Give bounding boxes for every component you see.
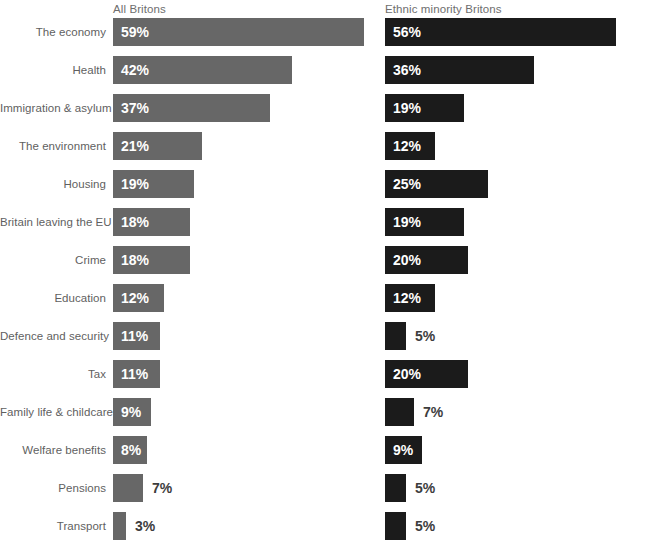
bar-panel-left: 11% bbox=[113, 360, 375, 388]
category-label: Crime bbox=[0, 246, 106, 274]
bar-panel-left: 3% bbox=[113, 512, 375, 540]
bar-value-label: 12% bbox=[121, 284, 149, 312]
bar-panel-left: 11% bbox=[113, 322, 375, 350]
bar-value-label: 19% bbox=[393, 94, 421, 122]
bar-value-label: 21% bbox=[121, 132, 149, 160]
bar-panel-right: 19% bbox=[385, 94, 640, 122]
chart-row: The economy59%56% bbox=[0, 18, 648, 56]
bar bbox=[385, 474, 406, 502]
chart-rows: The economy59%56%Health42%36%Immigration… bbox=[0, 18, 648, 550]
bar-value-label: 12% bbox=[393, 284, 421, 312]
bar-value-label: 18% bbox=[121, 208, 149, 236]
bar-value-label: 3% bbox=[135, 512, 155, 540]
chart-container: All Britons Ethnic minority Britons The … bbox=[0, 0, 648, 557]
category-label: Defence and security bbox=[0, 322, 106, 350]
category-label: Pensions bbox=[0, 474, 106, 502]
category-label: The environment bbox=[0, 132, 106, 160]
bar bbox=[113, 474, 143, 502]
bar bbox=[113, 512, 126, 540]
bar-value-label: 56% bbox=[393, 18, 421, 46]
chart-row: Britain leaving the EU18%19% bbox=[0, 208, 648, 246]
category-label: Britain leaving the EU bbox=[0, 208, 106, 236]
category-label: Health bbox=[0, 56, 106, 84]
bar-value-label: 42% bbox=[121, 56, 149, 84]
bar-panel-left: 19% bbox=[113, 170, 375, 198]
bar-value-label: 25% bbox=[393, 170, 421, 198]
bar-panel-right: 5% bbox=[385, 322, 640, 350]
category-label: Transport bbox=[0, 512, 106, 540]
chart-row: Family life & childcare9%7% bbox=[0, 398, 648, 436]
bar-panel-right: 5% bbox=[385, 512, 640, 540]
bar-value-label: 11% bbox=[121, 322, 148, 350]
bar-panel-left: 59% bbox=[113, 18, 375, 46]
chart-row: Education12%12% bbox=[0, 284, 648, 322]
category-label: Housing bbox=[0, 170, 106, 198]
chart-row: Housing19%25% bbox=[0, 170, 648, 208]
chart-row: Crime18%20% bbox=[0, 246, 648, 284]
bar-value-label: 59% bbox=[121, 18, 149, 46]
bar bbox=[385, 322, 406, 350]
bar-panel-left: 42% bbox=[113, 56, 375, 84]
bar-panel-left: 37% bbox=[113, 94, 375, 122]
bar-panel-right: 12% bbox=[385, 284, 640, 312]
bar-panel-right: 25% bbox=[385, 170, 640, 198]
bar-panel-left: 21% bbox=[113, 132, 375, 160]
chart-row: Welfare benefits8%9% bbox=[0, 436, 648, 474]
bar bbox=[385, 512, 406, 540]
bar-panel-right: 12% bbox=[385, 132, 640, 160]
chart-row: The environment21%12% bbox=[0, 132, 648, 170]
bar-panel-right: 19% bbox=[385, 208, 640, 236]
bar bbox=[385, 398, 414, 426]
category-label: The economy bbox=[0, 18, 106, 46]
bar-panel-right: 56% bbox=[385, 18, 640, 46]
bar-panel-right: 5% bbox=[385, 474, 640, 502]
bar bbox=[113, 18, 364, 46]
bar-panel-right: 20% bbox=[385, 246, 640, 274]
column-header-ethnic-minority-britons: Ethnic minority Britons bbox=[385, 3, 502, 15]
bar-value-label: 8% bbox=[121, 436, 141, 464]
category-label: Immigration & asylum bbox=[0, 94, 106, 122]
column-header-all-britons: All Britons bbox=[113, 3, 166, 15]
bar-value-label: 20% bbox=[393, 360, 421, 388]
chart-row: Health42%36% bbox=[0, 56, 648, 94]
bar-panel-right: 20% bbox=[385, 360, 640, 388]
chart-row: Transport3%5% bbox=[0, 512, 648, 550]
bar-value-label: 7% bbox=[423, 398, 443, 426]
bar-value-label: 9% bbox=[121, 398, 141, 426]
chart-row: Immigration & asylum37%19% bbox=[0, 94, 648, 132]
bar-value-label: 11% bbox=[121, 360, 148, 388]
category-label: Tax bbox=[0, 360, 106, 388]
bar-value-label: 18% bbox=[121, 246, 149, 274]
bar-panel-left: 8% bbox=[113, 436, 375, 464]
bar-panel-left: 9% bbox=[113, 398, 375, 426]
category-label: Family life & childcare bbox=[0, 398, 106, 426]
bar-value-label: 20% bbox=[393, 246, 421, 274]
bar-value-label: 19% bbox=[121, 170, 149, 198]
bar-value-label: 5% bbox=[415, 512, 435, 540]
chart-row: Defence and security11%5% bbox=[0, 322, 648, 360]
bar-value-label: 7% bbox=[152, 474, 172, 502]
bar-panel-left: 7% bbox=[113, 474, 375, 502]
bar-value-label: 5% bbox=[415, 474, 435, 502]
bar-value-label: 19% bbox=[393, 208, 421, 236]
bar-panel-left: 12% bbox=[113, 284, 375, 312]
chart-row: Tax11%20% bbox=[0, 360, 648, 398]
bar-panel-left: 18% bbox=[113, 208, 375, 236]
bar-panel-right: 36% bbox=[385, 56, 640, 84]
category-label: Education bbox=[0, 284, 106, 312]
chart-row: Pensions7%5% bbox=[0, 474, 648, 512]
category-label: Welfare benefits bbox=[0, 436, 106, 464]
bar-value-label: 5% bbox=[415, 322, 435, 350]
bar-panel-right: 7% bbox=[385, 398, 640, 426]
bar-panel-left: 18% bbox=[113, 246, 375, 274]
bar-value-label: 37% bbox=[121, 94, 149, 122]
bar-value-label: 12% bbox=[393, 132, 421, 160]
bar-panel-right: 9% bbox=[385, 436, 640, 464]
bar-value-label: 9% bbox=[393, 436, 413, 464]
bar-value-label: 36% bbox=[393, 56, 421, 84]
